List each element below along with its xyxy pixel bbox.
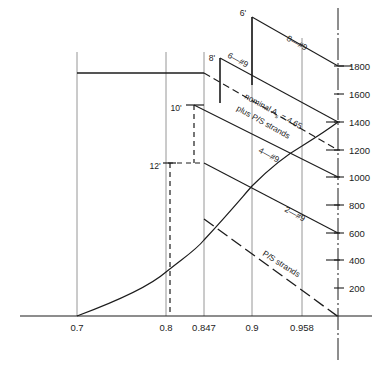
- annot-2-9: 2—#9: [283, 205, 307, 224]
- series-4-9-line: [194, 105, 338, 177]
- y-tick-1200: 1200: [349, 145, 370, 156]
- y-tick-1000: 1000: [349, 172, 370, 183]
- y-tick-1800: 1800: [349, 61, 370, 72]
- y-axis-tick-labels: 1800 1600 1400 1200 1000 800 600 400 200: [349, 61, 370, 294]
- series-2-9-line: [204, 163, 338, 233]
- annot-4-9: 4—#9: [257, 146, 281, 165]
- annot-6-9: 6—#9: [226, 51, 250, 70]
- span-marker-12-construction: [163, 163, 204, 316]
- x-tick-3: 0.9: [245, 322, 258, 333]
- x-axis-tick-labels: 0.7 0.8 0.847 0.9 0.958: [70, 322, 314, 333]
- x-tick-1: 0.8: [159, 322, 172, 333]
- series-ps-strands-line: [204, 219, 340, 318]
- y-tick-400: 400: [349, 255, 365, 266]
- x-tick-4: 0.958: [290, 322, 314, 333]
- x-tick-0: 0.7: [70, 322, 83, 333]
- y-tick-1600: 1600: [349, 89, 370, 100]
- span-label-10: 10': [170, 103, 182, 113]
- annot-8-9: 8—#9: [285, 34, 309, 53]
- engineering-chart: 0.7 0.8 0.847 0.9 0.958 1800 1600 1400 1…: [0, 0, 390, 366]
- y-tick-200: 200: [349, 283, 365, 294]
- span-label-6: 6': [240, 8, 247, 18]
- y-tick-600: 600: [349, 228, 365, 239]
- y-tick-1400: 1400: [349, 117, 370, 128]
- x-tick-2: 0.847: [192, 322, 216, 333]
- span-label-12: 12': [149, 161, 161, 171]
- chart-svg: 0.7 0.8 0.847 0.9 0.958 1800 1600 1400 1…: [0, 0, 390, 366]
- span-label-8: 8': [209, 53, 216, 63]
- span-marker-10-construction: [186, 105, 204, 163]
- vertical-gridlines: [77, 17, 302, 316]
- y-tick-800: 800: [349, 200, 365, 211]
